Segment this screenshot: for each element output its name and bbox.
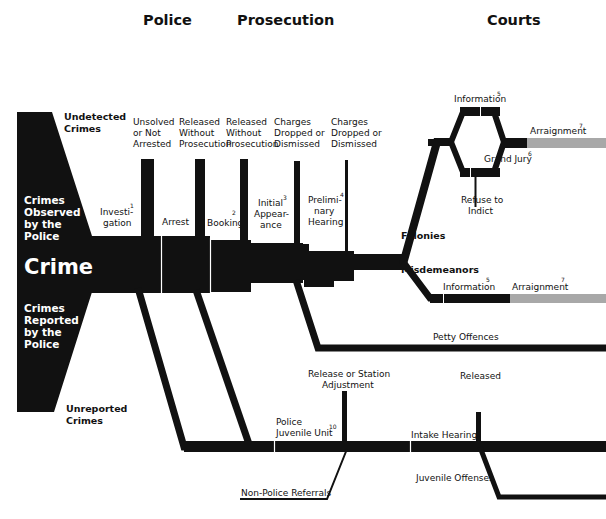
footnote-6: 6 <box>528 150 532 157</box>
header-courts: Courts <box>487 12 541 28</box>
exit-bar-dropped-2 <box>345 160 348 252</box>
preliminary-hearing-block-b <box>304 251 334 287</box>
label-released-without-prosecution-2: Released Without Prosecution <box>226 117 278 149</box>
initial-appearance-block <box>251 243 303 283</box>
label-felonies: Felonies <box>401 230 446 241</box>
arraignment-top-bar <box>527 138 606 148</box>
booking-block <box>211 240 251 292</box>
arraignment-bottom-entry <box>495 294 510 303</box>
arrest-block <box>162 236 210 293</box>
footnote-1: 1 <box>130 202 134 209</box>
label-petty-offences: Petty Offences <box>433 332 499 342</box>
arraignment-bottom-bar <box>510 294 606 303</box>
label-grand-jury: Grand Jury <box>484 154 533 164</box>
label-arraignment-bottom: Arraignment <box>512 282 569 292</box>
arraignment-entry-block <box>503 138 527 148</box>
label-initial-appearance: Initial Appear- ance <box>254 198 292 230</box>
felony-flow-line <box>403 142 452 264</box>
label-investigation: Investi- gation <box>100 207 136 228</box>
header-police: Police <box>143 12 192 28</box>
label-charges-dropped-2: Charges Dropped or Dismissed <box>331 117 385 149</box>
label-undetected-crimes: Undetected Crimes <box>64 111 129 134</box>
label-release-station-adjustment: Release or Station Adjustment <box>308 369 393 390</box>
label-preliminary-hearing: Prelimi- nary Hearing <box>308 195 345 227</box>
information-path-upper <box>451 112 504 142</box>
label-information-bottom: Information <box>443 282 495 292</box>
footnote-4: 4 <box>340 191 344 198</box>
footnote-7-top: 7 <box>579 122 583 129</box>
post-hearing-flow <box>345 254 405 270</box>
label-charges-dropped-1: Charges Dropped or Dismissed <box>274 117 328 149</box>
grand-jury-block <box>460 168 500 177</box>
footnote-5-top: 5 <box>497 90 501 97</box>
label-unsolved: Unsolved or Not Arrested <box>133 117 177 149</box>
label-crime: Crime <box>24 255 93 279</box>
footnote-10: 10 <box>329 423 337 430</box>
information-bottom-block <box>430 294 500 303</box>
juvenile-flow-from-arrest <box>138 288 250 447</box>
exit-bar-released-2 <box>240 159 248 243</box>
footnote-2: 2 <box>232 209 236 216</box>
footnote-3: 3 <box>283 194 287 201</box>
juvenile-offenses-flow <box>480 447 606 497</box>
exit-bar-released-1 <box>195 159 205 241</box>
exit-bar-dropped-1 <box>294 161 300 245</box>
label-unreported-crimes: Unreported Crimes <box>66 403 131 426</box>
footnote-5-bottom: 5 <box>486 276 490 283</box>
label-intake-hearing: Intake Hearing <box>411 430 477 440</box>
label-arrest: Arrest <box>162 217 189 227</box>
criminal-justice-flow-diagram: Police Prosecution Courts <box>0 0 606 519</box>
juvenile-flow-from-booking <box>196 290 250 447</box>
label-refuse-to-indict: Refuse to Indict <box>461 195 506 216</box>
exit-bar-unsolved <box>141 159 154 239</box>
juvenile-main-bar <box>184 441 606 452</box>
label-released: Released <box>460 371 501 381</box>
felony-entry-block <box>428 139 452 146</box>
header-prosecution: Prosecution <box>237 12 334 28</box>
release-station-bar <box>342 391 347 443</box>
label-booking: Booking <box>207 218 243 228</box>
label-non-police-referrals: Non-Police Referrals <box>241 488 332 498</box>
footnote-7-bottom: 7 <box>561 276 565 283</box>
investigation-block <box>90 236 162 293</box>
label-police-juvenile-unit: Police Juvenile Unit <box>275 417 333 438</box>
label-misdemeanors: Misdemeanors <box>401 264 479 275</box>
label-juvenile-offenses: Juvenile Offenses <box>415 473 494 483</box>
label-released-without-prosecution-1: Released Without Prosecution <box>179 117 231 149</box>
